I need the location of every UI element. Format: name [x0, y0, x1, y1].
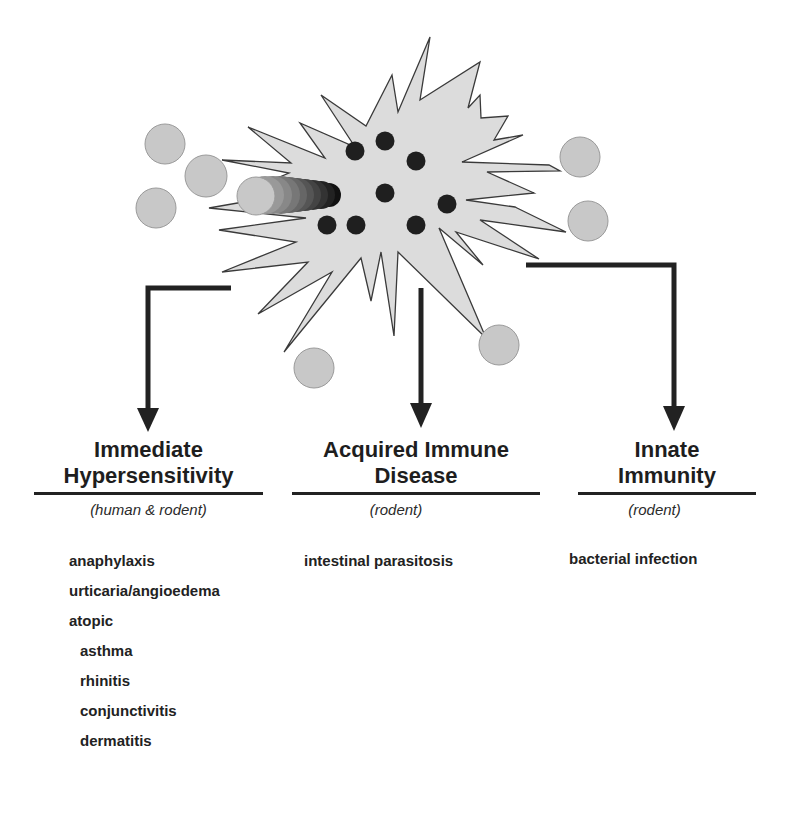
host-label: (rodent) — [578, 501, 731, 518]
host-label: (rodent) — [292, 501, 500, 518]
condition-list: anaphylaxis urticaria/angioedema atopic … — [69, 546, 220, 756]
particle — [185, 155, 227, 197]
branch-innate-immunity: Innate Immunity (rodent) — [578, 437, 756, 518]
list-item: intestinal parasitosis — [304, 546, 453, 576]
particle — [568, 201, 608, 241]
branch-immediate-hypersensitivity: Immediate Hypersensitivity (human & rode… — [34, 437, 263, 518]
list-item: urticaria/angioedema — [69, 576, 220, 606]
arrow-left-path — [148, 288, 231, 410]
list-item: conjunctivitis — [69, 696, 220, 726]
branch-acquired-immune-disease: Acquired Immune Disease (rodent) — [292, 437, 540, 518]
condition-list: bacterial infection — [569, 544, 697, 574]
condition-list: intestinal parasitosis — [304, 546, 453, 576]
list-item: rhinitis — [69, 666, 220, 696]
list-item: anaphylaxis — [69, 546, 220, 576]
branch-heading: Immediate Hypersensitivity — [34, 437, 263, 489]
arrow-right-head — [663, 406, 685, 431]
particle — [560, 137, 600, 177]
particle — [136, 188, 176, 228]
list-item: dermatitis — [69, 726, 220, 756]
host-label: (human & rodent) — [34, 501, 263, 518]
particle — [145, 124, 185, 164]
particle — [294, 348, 334, 388]
branch-heading: Acquired Immune Disease — [292, 437, 540, 489]
arrow-center-head — [410, 403, 432, 428]
heading-divider — [292, 492, 540, 495]
arrow-left-head — [137, 408, 159, 432]
particle — [479, 325, 519, 365]
connector-arrows — [137, 265, 685, 432]
branch-heading: Innate Immunity — [578, 437, 756, 489]
list-item: atopic — [69, 606, 220, 636]
arrow-right-path — [526, 265, 674, 408]
list-item: asthma — [69, 636, 220, 666]
heading-divider — [34, 492, 263, 495]
list-item: bacterial infection — [569, 544, 697, 574]
heading-divider — [578, 492, 756, 495]
